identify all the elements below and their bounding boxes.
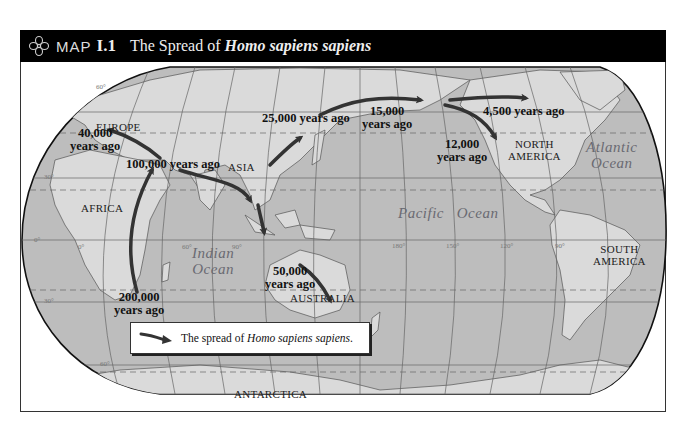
lon-label-90e: 90° — [232, 244, 242, 251]
date-label-australia: 50,000years ago — [265, 265, 315, 291]
lon-label-90w: 90° — [555, 243, 565, 250]
region-label-asia: ASIA — [228, 162, 255, 174]
quatrefoil-ornament-icon — [28, 35, 50, 57]
ocean-label-atlantic: AtlanticOcean — [586, 140, 638, 172]
lat-label-30n: 30° — [44, 174, 54, 181]
region-label-australia: AUSTRALIA — [290, 293, 355, 305]
map-label: MAP — [56, 38, 92, 55]
ocean-label-indian: IndianOcean — [192, 246, 234, 278]
legend-text: The spread of Homo sapiens sapiens. — [181, 332, 353, 344]
lon-label-60e: 60° — [182, 244, 192, 251]
date-label-arctic: 4,500 years ago — [483, 105, 565, 118]
map-number: I.1 — [97, 36, 116, 56]
lat-label-0: 0° — [34, 237, 40, 244]
date-label-beringia: 15,000years ago — [362, 105, 412, 131]
date-label-middle-east: 100,000 years ago — [126, 158, 220, 171]
ocean-label-pacific: Pacific Ocean — [398, 206, 498, 222]
region-label-south-america: SOUTHAMERICA — [593, 244, 646, 267]
lon-label-120w: 120° — [500, 243, 513, 250]
lon-label-180: 180° — [392, 243, 405, 250]
lon-label-150w: 150° — [446, 243, 459, 250]
region-label-africa: AFRICA — [81, 203, 123, 215]
lat-label-60n: 60° — [96, 84, 106, 91]
lat-label-30s: 30° — [44, 298, 54, 305]
region-label-north-america: NORTHAMERICA — [508, 139, 561, 162]
lon-label-0: 0° — [78, 244, 84, 251]
migration-arrow-icon — [139, 331, 173, 345]
date-label-africa-origin: 200,000years ago — [114, 291, 164, 317]
map-header: MAP I.1 The Spread of Homo sapiens sapie… — [20, 30, 666, 62]
map-title: The Spread of Homo sapiens sapiens — [130, 37, 371, 55]
date-label-east-asia: 25,000 years ago — [262, 112, 350, 125]
map-legend: The spread of Homo sapiens sapiens. — [130, 322, 370, 354]
date-label-europe: 40,000years ago — [70, 127, 120, 153]
lat-label-60s: 60° — [100, 361, 110, 368]
region-label-antarctica: ANTARCTICA — [234, 389, 307, 401]
date-label-americas: 12,000years ago — [437, 138, 487, 164]
